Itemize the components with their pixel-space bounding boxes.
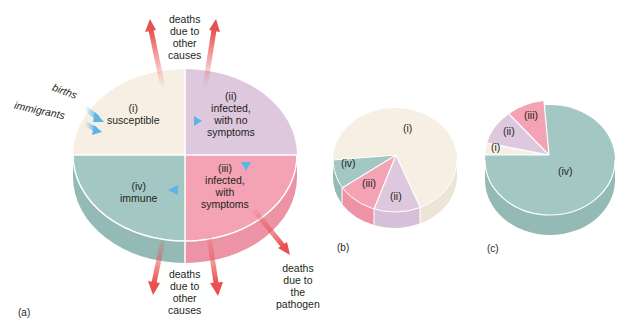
arrow-up-icon	[209, 19, 220, 32]
arrow-down-icon	[210, 282, 223, 296]
bottom-deaths-label: deaths due to other causes	[168, 268, 201, 316]
panel-label-c: (c)	[487, 243, 499, 254]
panel-label-b: (b)	[337, 242, 349, 253]
pathogen-deaths-label: deaths due to the pathogen	[276, 262, 320, 310]
pie-b-label-ii: (ii)	[390, 190, 402, 202]
segment-i-label: (i) susceptible	[107, 102, 160, 126]
pie-b-label-iv: (iv)	[341, 157, 356, 169]
pie-b-label-iii: (iii)	[362, 177, 376, 189]
pie-a	[73, 69, 297, 263]
arrow-up-icon	[145, 19, 156, 32]
arrow-down-icon	[148, 281, 160, 295]
panel-label-a: (a)	[18, 307, 30, 318]
segment-iv-label: (iv) immune	[120, 180, 157, 204]
pie-b-label-i: (i)	[403, 122, 412, 134]
pie-c-label-iii: (iii)	[524, 109, 538, 121]
segment-iii-label: (iii) infected, with symptoms	[201, 162, 249, 210]
pie-c-label-i: (i)	[491, 141, 500, 153]
pie-c	[485, 101, 615, 235]
segment-ii-label: (ii) infected, with no symptoms	[207, 90, 255, 138]
pie-c-label-iv: (iv)	[558, 165, 573, 177]
top-deaths-label: deaths due to other causes	[168, 13, 201, 61]
pie-c-label-ii: (ii)	[503, 125, 515, 137]
